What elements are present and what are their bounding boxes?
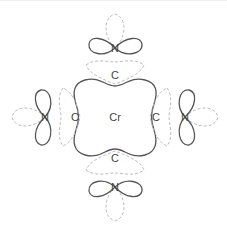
carbon-label-left: C (71, 111, 79, 123)
carbon-label-right: C (152, 111, 160, 123)
carbon-label-top: C (111, 69, 119, 81)
nitrogen-label-bottom: N (111, 181, 119, 193)
nitrogen-label-right: N (181, 111, 189, 123)
top-n-right-p-lobe (115, 38, 142, 53)
nitrogen-label-top: N (111, 42, 119, 54)
carbon-label-bottom: C (111, 152, 119, 164)
nitrogen-label-left: N (41, 111, 49, 123)
bottom-n-right-p-lobe (115, 181, 142, 196)
cr-label: Cr (109, 111, 121, 123)
cr-cn-orbital-diagram: Cr C C C C N N N N (0, 0, 227, 229)
